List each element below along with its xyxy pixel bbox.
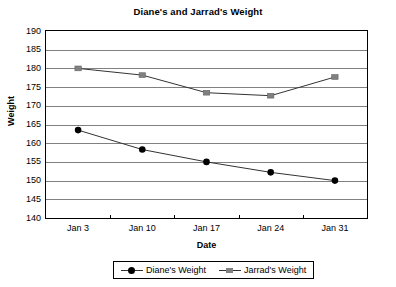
data-point [75, 66, 81, 71]
x-tick-label: Jan 3 [43, 223, 113, 234]
plot-area [45, 30, 368, 219]
data-point [203, 159, 210, 166]
data-point [268, 93, 274, 98]
x-tick-label: Jan 24 [236, 223, 306, 234]
y-tick-label: 180 [1, 64, 41, 73]
x-tick-label: Jan 17 [172, 223, 242, 234]
x-axis-title: Date [45, 240, 368, 250]
legend-entry-1[interactable]: Jarrad's Weight [219, 265, 306, 276]
data-point [332, 75, 338, 80]
data-point [139, 146, 146, 153]
data-point [332, 177, 339, 184]
y-tick-label: 155 [1, 157, 41, 166]
data-point [267, 169, 274, 176]
y-axis-tick-labels: 140145150155160165170175180185190 [0, 0, 41, 287]
x-tick-label: Jan 10 [107, 223, 177, 234]
data-point [75, 127, 82, 134]
legend-label: Diane's Weight [146, 265, 206, 275]
data-point [139, 73, 145, 78]
series-line-0 [78, 130, 335, 180]
y-tick-label: 140 [1, 214, 41, 223]
y-tick-label: 185 [1, 45, 41, 54]
legend-entry-0[interactable]: Diane's Weight [121, 265, 206, 276]
y-tick-label: 150 [1, 176, 41, 185]
y-tick-label: 170 [1, 101, 41, 110]
legend-circle-marker-icon [121, 265, 143, 276]
legend-label: Jarrad's Weight [244, 265, 306, 275]
y-tick-label: 190 [1, 27, 41, 36]
x-axis-tick-labels: Jan 3Jan 10Jan 17Jan 24Jan 31 [45, 223, 368, 237]
chart-legend: Diane's WeightJarrad's Weight [113, 261, 314, 279]
data-point [203, 90, 209, 95]
chart-title: Diane's and Jarrad's Weight [0, 6, 396, 17]
y-tick-label: 165 [1, 120, 41, 129]
plot-svg [46, 31, 367, 218]
weight-line-chart: Diane's and Jarrad's Weight Weight 14014… [0, 0, 396, 287]
x-tick-label: Jan 31 [300, 223, 370, 234]
legend-square-marker-icon [219, 265, 241, 276]
y-tick-label: 160 [1, 139, 41, 148]
y-tick-label: 175 [1, 83, 41, 92]
y-tick-label: 145 [1, 195, 41, 204]
